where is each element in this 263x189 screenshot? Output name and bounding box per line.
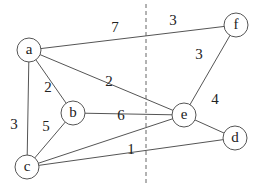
edge-weight-c-e: 6 [117,107,125,123]
edge-c-e [27,115,184,167]
edge-e-f [184,25,236,115]
edge-b-e [73,113,184,115]
node-label: c [24,158,31,174]
node-label: e [181,106,188,122]
node-a: a [17,38,41,62]
edge-weight-a-e: 2 [105,73,113,89]
node-c: c [15,155,39,179]
node-e: e [172,103,196,127]
edge-weight-a-b: 2 [44,79,52,95]
graph-diagram: 7322356134abcdef [0,0,263,189]
edge-a-c [27,50,29,167]
node-b: b [61,101,85,125]
node-label: a [26,41,33,57]
node-d: d [223,126,247,150]
node-f: f [224,13,248,37]
edge-a-f [29,25,236,50]
graph-svg: 7322356134abcdef [0,0,263,189]
edge-weight-b-c: 5 [42,118,50,134]
node-label: b [69,104,77,120]
node-label: f [234,16,239,32]
edge-weight-c-d: 1 [127,141,135,157]
edge-weight-e-f: 3 [195,46,203,62]
edge-weight-a-f: 3 [169,12,177,28]
edge-weight-a-c: 3 [10,116,18,132]
node-label: d [231,129,239,145]
edge-weight-d-e: 4 [211,91,219,107]
edge-weight-a-f: 7 [111,19,119,35]
